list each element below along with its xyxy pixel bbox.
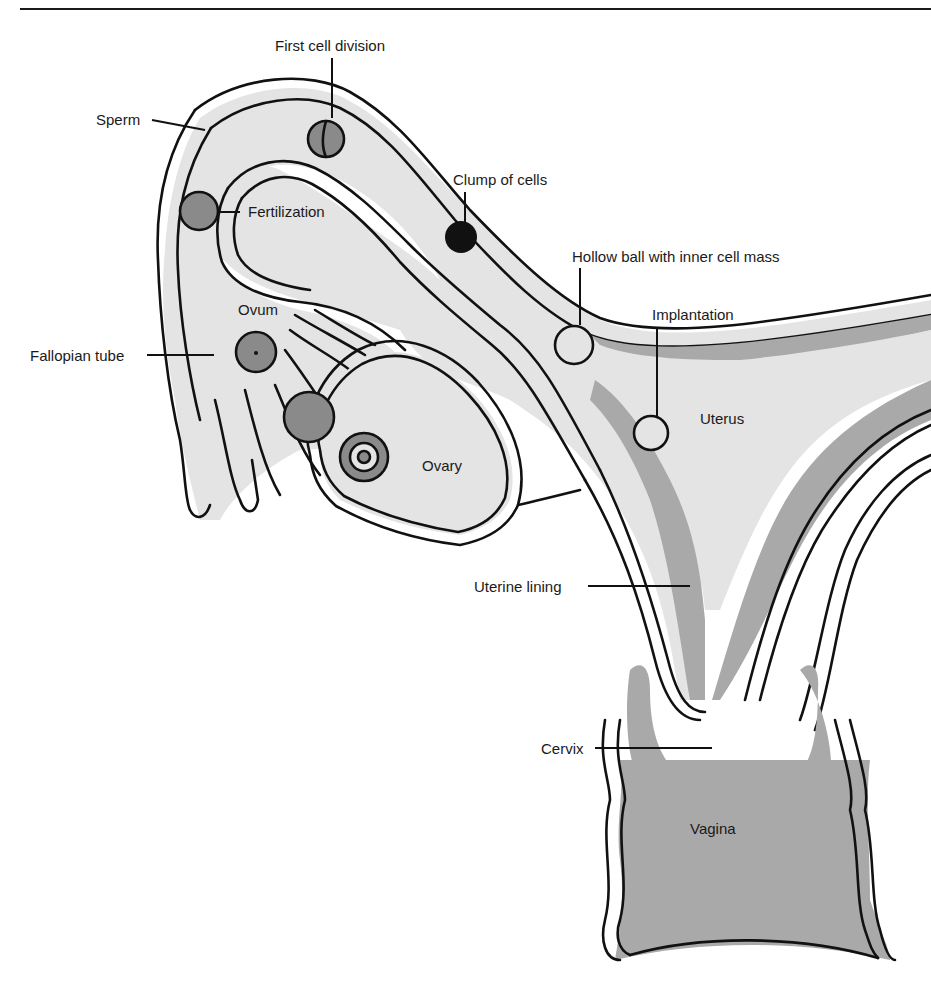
label-hollow-ball: Hollow ball with inner cell mass [572, 248, 780, 265]
label-cervix: Cervix [541, 740, 584, 757]
label-clump-of-cells: Clump of cells [453, 171, 547, 188]
cervix-vagina-shape [603, 665, 895, 960]
label-first-cell-division: First cell division [275, 37, 385, 54]
reproductive-tract-diagram [0, 0, 931, 984]
label-implantation: Implantation [652, 306, 734, 323]
label-ovary: Ovary [422, 457, 462, 474]
label-vagina: Vagina [690, 820, 736, 837]
label-uterine-lining: Uterine lining [474, 578, 562, 595]
label-sperm: Sperm [96, 111, 140, 128]
label-fertilization: Fertilization [248, 203, 325, 220]
label-fallopian-tube: Fallopian tube [30, 347, 124, 364]
label-ovum: Ovum [238, 301, 278, 318]
label-uterus: Uterus [700, 410, 744, 427]
